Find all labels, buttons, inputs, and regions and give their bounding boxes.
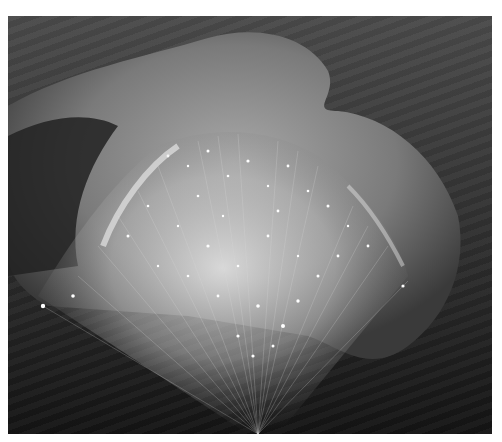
fiber-optic-photo bbox=[8, 16, 492, 434]
photo-illustration bbox=[8, 16, 492, 434]
